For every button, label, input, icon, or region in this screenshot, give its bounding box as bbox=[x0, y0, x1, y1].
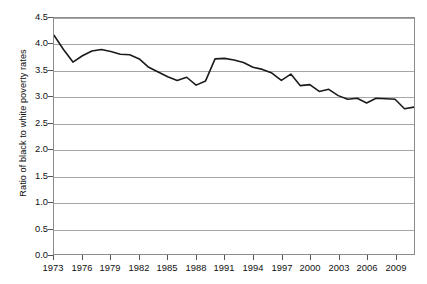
y-axis-tick-label: 3.0 bbox=[18, 91, 48, 100]
y-axis-tick bbox=[48, 96, 53, 97]
x-axis-tick bbox=[339, 255, 340, 260]
y-axis-tick bbox=[48, 176, 53, 177]
y-axis-tick-label: 1.0 bbox=[18, 197, 48, 206]
y-axis-tick-label: 0.0 bbox=[18, 250, 48, 259]
y-axis-tick-label: 3.5 bbox=[18, 65, 48, 74]
y-axis-tick-label: 4.0 bbox=[18, 38, 48, 47]
x-axis-tick bbox=[282, 255, 283, 260]
x-axis-tick bbox=[139, 255, 140, 260]
x-axis-tick bbox=[53, 255, 54, 260]
y-axis-tick-label: 1.5 bbox=[18, 171, 48, 180]
y-axis-tick bbox=[48, 229, 53, 230]
y-axis-tick bbox=[48, 202, 53, 203]
x-axis-tick bbox=[253, 255, 254, 260]
x-axis-tick bbox=[396, 255, 397, 260]
y-axis-tick-label: 2.5 bbox=[18, 118, 48, 127]
x-axis-tick bbox=[196, 255, 197, 260]
x-axis-tick bbox=[310, 255, 311, 260]
series-line bbox=[54, 18, 414, 254]
y-axis-tick-label: 4.5 bbox=[18, 12, 48, 21]
x-axis-tick bbox=[367, 255, 368, 260]
x-axis-tick bbox=[167, 255, 168, 260]
y-axis-tick bbox=[48, 123, 53, 124]
y-axis-tick bbox=[48, 149, 53, 150]
x-axis-tick bbox=[224, 255, 225, 260]
y-axis-tick bbox=[48, 43, 53, 44]
y-axis-tick-label: 2.0 bbox=[18, 144, 48, 153]
poverty-ratio-line-chart: Ratio of black to white poverty rates 0.… bbox=[0, 0, 427, 284]
x-axis-tick-label: 2009 bbox=[374, 263, 418, 273]
x-axis-tick bbox=[110, 255, 111, 260]
plot-area bbox=[53, 17, 415, 255]
x-axis-tick bbox=[82, 255, 83, 260]
y-axis-tick bbox=[48, 17, 53, 18]
y-axis-tick bbox=[48, 70, 53, 71]
y-axis-tick-label: 0.5 bbox=[18, 224, 48, 233]
